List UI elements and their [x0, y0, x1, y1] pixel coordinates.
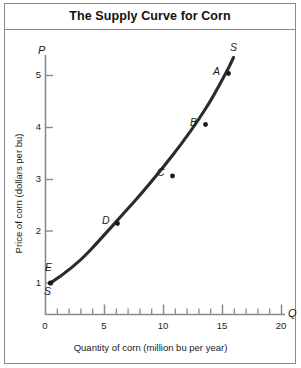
- point-label-E: E: [45, 261, 52, 273]
- supply-curve-figure: The Supply Curve for Corn: [0, 0, 301, 368]
- x-axis-ticks: [57, 305, 281, 315]
- point-marker-D: [115, 221, 120, 226]
- y-axis-title: Price of corn (dollars per bu): [13, 114, 24, 274]
- point-label-D: D: [102, 214, 110, 226]
- point-label-C: C: [157, 166, 165, 178]
- y-tick-label-3: 3: [27, 173, 41, 184]
- x-tick-label-0: 0: [37, 320, 53, 331]
- x-tick-label-15: 15: [214, 320, 230, 331]
- data-point-markers: [48, 71, 231, 286]
- point-label-A: A: [213, 65, 220, 77]
- y-axis-letter: P: [38, 44, 45, 56]
- curve-label-bottom-s: S: [44, 285, 51, 297]
- x-axis-title: Quantity of corn (million bu per year): [0, 342, 301, 353]
- x-tick-label-10: 10: [155, 320, 171, 331]
- x-axis-letter: Q: [288, 307, 297, 319]
- curve-label-top-s: S: [230, 41, 237, 53]
- x-tick-label-5: 5: [96, 320, 112, 331]
- y-tick-label-4: 4: [27, 121, 41, 132]
- y-axis-ticks: [46, 76, 54, 284]
- point-label-B: B: [190, 116, 197, 128]
- x-tick-label-20: 20: [273, 320, 289, 331]
- y-tick-label-2: 2: [27, 225, 41, 236]
- point-marker-C: [170, 174, 175, 179]
- point-marker-B: [203, 122, 208, 127]
- y-tick-label-1: 1: [27, 277, 41, 288]
- y-tick-label-5: 5: [27, 69, 41, 80]
- supply-curve: [50, 58, 233, 284]
- point-marker-A: [226, 71, 231, 76]
